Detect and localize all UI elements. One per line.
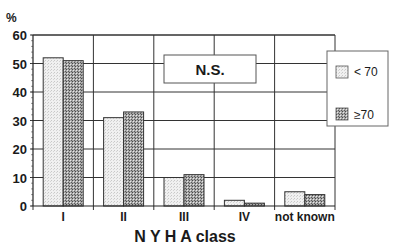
- annotation-box: N.S.: [164, 55, 256, 83]
- bar: [43, 58, 63, 206]
- bar-chart: 0102030405060IIIIIIIVnot known % N Y H A…: [0, 0, 399, 251]
- legend-label-lt70: < 70: [354, 65, 378, 79]
- bar: [224, 200, 244, 206]
- y-tick-label: 50: [13, 57, 27, 72]
- y-tick-label: 10: [13, 171, 27, 186]
- y-tick-label: 30: [13, 114, 27, 129]
- bar: [305, 195, 325, 206]
- legend-swatch-lt70: [336, 66, 348, 78]
- legend: < 70 ≥70: [327, 51, 388, 126]
- y-tick-label: 20: [13, 142, 27, 157]
- y-axis-label: %: [6, 11, 17, 25]
- y-tick-label: 0: [20, 199, 27, 214]
- bar: [104, 118, 124, 206]
- x-tick-label: III: [179, 210, 189, 224]
- legend-swatch-ge70: [336, 108, 348, 120]
- bar: [124, 112, 144, 206]
- bar: [184, 175, 204, 206]
- y-tick-label: 40: [13, 85, 27, 100]
- x-tick-label: I: [62, 210, 65, 224]
- legend-label-ge70: ≥70: [354, 108, 374, 122]
- bar: [164, 178, 184, 207]
- y-tick-label: 60: [13, 28, 27, 43]
- annotation-text: N.S.: [195, 61, 224, 78]
- x-tick-label: II: [120, 210, 127, 224]
- bar: [285, 192, 305, 206]
- bar: [63, 61, 83, 206]
- x-tick-label: IV: [239, 210, 250, 224]
- x-axis-label: N Y H A class: [134, 228, 235, 245]
- x-tick-label: not known: [275, 210, 335, 224]
